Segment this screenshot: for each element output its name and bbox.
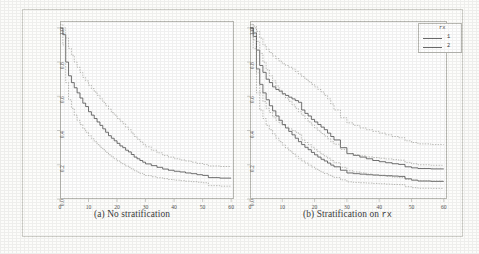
x-tick-label: 20 xyxy=(312,204,318,210)
x-tick-label: 10 xyxy=(86,204,92,210)
caption-b-prefix: (b) xyxy=(303,209,314,219)
y-tick-label: 0.6 xyxy=(59,96,65,103)
y-tick-label: 0.2 xyxy=(59,165,65,172)
y-tick-label: 0.8 xyxy=(59,62,65,69)
caption-a-text: No stratification xyxy=(107,209,170,219)
caption-a-prefix: (a) xyxy=(94,209,105,219)
legend-label-2: 2 xyxy=(447,43,450,49)
panel-stratification-on-rx: rx 1 2 (b) Stratification on rx 01020304… xyxy=(232,9,463,237)
rx-1-estimate xyxy=(250,28,444,169)
rx-1-lower-band xyxy=(250,30,444,181)
panel-no-stratification: (a) No stratification 01020304050600.00.… xyxy=(22,9,242,237)
y-tick-label: 1.0 xyxy=(249,28,255,35)
rx-1-upper-band xyxy=(250,24,444,144)
x-tick-label: 40 xyxy=(171,204,177,210)
x-tick-label: 50 xyxy=(200,204,206,210)
legend-line-sample-1 xyxy=(423,38,442,39)
plot-svg-a xyxy=(22,9,242,237)
x-tick-label: 30 xyxy=(344,204,350,210)
x-tick-label: 30 xyxy=(143,204,149,210)
upper-confidence-band xyxy=(60,24,231,166)
figure-root: (a) No stratification 01020304050600.00.… xyxy=(0,0,479,254)
legend-title: rx xyxy=(439,25,445,31)
y-tick-label: 0.0 xyxy=(59,199,65,206)
x-tick-label: 10 xyxy=(279,204,285,210)
y-tick-label: 1.0 xyxy=(59,28,65,35)
y-tick-label: 0.6 xyxy=(249,96,255,103)
y-tick-label: 0.4 xyxy=(59,131,65,138)
caption-b: (b) Stratification on rx xyxy=(232,209,463,220)
caption-a: (a) No stratification xyxy=(22,209,242,219)
y-tick-label: 0.4 xyxy=(249,131,255,138)
y-tick-label: 0.2 xyxy=(249,165,255,172)
y-tick-label: 0.8 xyxy=(249,62,255,69)
x-tick-label: 60 xyxy=(441,204,447,210)
x-tick-label: 40 xyxy=(376,204,382,210)
y-tick-label: 0.0 xyxy=(249,199,255,206)
legend[interactable]: rx 1 2 xyxy=(418,23,462,53)
caption-b-mono: rx xyxy=(382,210,393,220)
rx-2-lower-band xyxy=(250,31,444,188)
legend-line-sample-2 xyxy=(423,47,442,48)
x-tick-label: 20 xyxy=(114,204,120,210)
caption-b-text: Stratification on xyxy=(317,209,379,219)
estimate xyxy=(60,28,231,178)
rx-2-estimate xyxy=(250,28,444,182)
legend-label-1: 1 xyxy=(447,34,450,40)
x-tick-label: 50 xyxy=(409,204,415,210)
rx-2-upper-band xyxy=(250,24,444,165)
